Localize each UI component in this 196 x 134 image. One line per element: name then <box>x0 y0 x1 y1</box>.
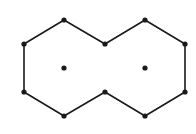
vertex-dot <box>102 89 107 94</box>
center-dot <box>142 65 147 70</box>
center-dots <box>61 65 147 70</box>
hexagon-outline <box>24 20 185 116</box>
vertex-dot <box>61 17 66 22</box>
vertex-dot <box>142 17 147 22</box>
vertex-dots <box>21 17 187 118</box>
vertex-dot <box>102 41 107 46</box>
vertex-dot <box>21 89 26 94</box>
vertex-dot <box>182 41 187 46</box>
center-dot <box>61 65 66 70</box>
vertex-dot <box>21 41 26 46</box>
fused-hexagon-diagram <box>0 0 196 134</box>
vertex-dot <box>182 89 187 94</box>
vertex-dot <box>61 113 66 118</box>
vertex-dot <box>142 113 147 118</box>
